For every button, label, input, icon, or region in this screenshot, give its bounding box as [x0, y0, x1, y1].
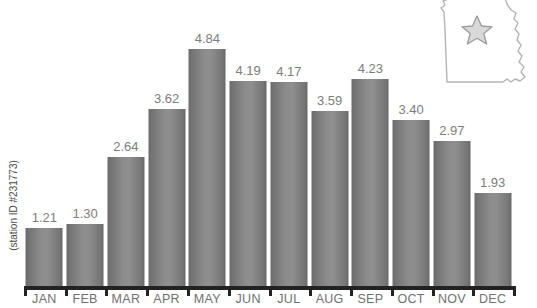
bar-slot: 1.21 — [24, 0, 65, 288]
bar-slot: 2.64 — [106, 0, 147, 288]
bar-value-label: 4.19 — [235, 63, 260, 78]
bar-value-label: 3.62 — [154, 91, 179, 106]
month-label: NOV — [432, 292, 473, 308]
month-label: FEB — [65, 292, 106, 308]
bar-value-label: 4.84 — [195, 31, 220, 46]
month-label: APR — [146, 292, 187, 308]
bar-value-label: 1.93 — [480, 175, 505, 190]
bar — [189, 49, 226, 288]
bar-slot: 1.30 — [65, 0, 106, 288]
bar — [67, 224, 104, 288]
month-label: OCT — [391, 292, 432, 308]
month-label: JAN — [24, 292, 65, 308]
month-label: MAR — [106, 292, 147, 308]
month-label: JUN — [228, 292, 269, 308]
bar-value-label: 3.59 — [317, 93, 342, 108]
month-label: JUL — [269, 292, 310, 308]
bar — [107, 157, 144, 288]
y-axis-caption: (station ID #231773) — [8, 146, 19, 266]
missouri-map — [421, 0, 533, 92]
month-label: MAY — [187, 292, 228, 308]
month-label: AUG — [309, 292, 350, 308]
bar — [393, 120, 430, 288]
bar-value-label: 1.21 — [32, 210, 57, 225]
bar-value-label: 4.23 — [358, 61, 383, 76]
bar-slot: 3.62 — [146, 0, 187, 288]
bar-slot: 4.17 — [269, 0, 310, 288]
bar-slot: 3.59 — [309, 0, 350, 288]
bar-value-label: 4.17 — [276, 64, 301, 79]
x-axis-labels: JANFEBMARAPRMAYJUNJULAUGSEPOCTNOVDEC — [24, 292, 513, 308]
bar — [26, 228, 63, 288]
bar — [230, 81, 267, 288]
bar-slot: 4.23 — [350, 0, 391, 288]
chart-canvas: for Columbia, Missouri (station ID #2317… — [0, 0, 537, 308]
axis-tick — [513, 286, 516, 296]
bar-value-label: 3.40 — [398, 102, 423, 117]
bar-slot: 4.84 — [187, 0, 228, 288]
bar-value-label: 1.30 — [72, 206, 97, 221]
bar — [433, 141, 470, 288]
bar — [474, 193, 511, 288]
bar-value-label: 2.64 — [113, 139, 138, 154]
bar — [270, 82, 307, 288]
bar — [311, 111, 348, 288]
bar-value-label: 2.97 — [439, 123, 464, 138]
month-label: DEC — [472, 292, 513, 308]
bar — [148, 109, 185, 288]
bar — [352, 79, 389, 288]
month-label: SEP — [350, 292, 391, 308]
bar-slot: 4.19 — [228, 0, 269, 288]
